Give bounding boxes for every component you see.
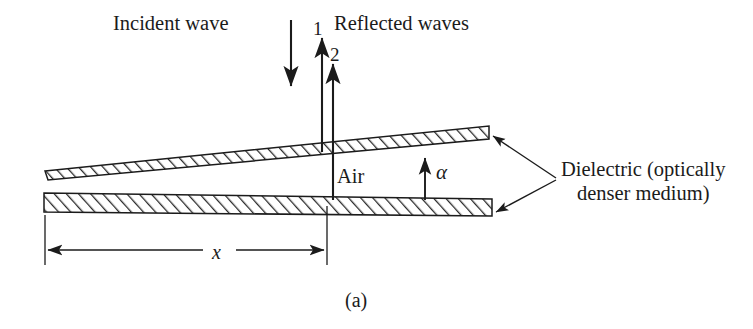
dielectric-label-line-1: Dielectric (optically xyxy=(561,158,726,180)
reflected-waves-label: Reflected waves xyxy=(334,12,469,36)
dielectric-leader-lines xyxy=(493,136,556,212)
wedge-interference-figure: Incident wave Reflected waves 1 2 Air α … xyxy=(0,0,753,329)
wedge-angle-label: α xyxy=(436,160,447,184)
dielectric-label: Dielectric (optically denser medium) xyxy=(561,158,726,205)
upper-dielectric-plate xyxy=(45,126,489,180)
figure-caption: (a) xyxy=(345,289,367,312)
ray-2-label: 2 xyxy=(330,44,340,66)
ray-1-label: 1 xyxy=(313,18,323,40)
dielectric-label-line-2: denser medium) xyxy=(561,182,726,206)
air-gap-label: Air xyxy=(337,165,364,189)
incident-wave-label: Incident wave xyxy=(113,12,229,36)
distance-label: x xyxy=(212,241,221,264)
